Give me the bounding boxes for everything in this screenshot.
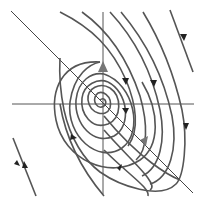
trajectory-3 (110, 12, 162, 176)
eigen-line (11, 11, 193, 193)
trajectory-6 (170, 10, 193, 72)
arrow-icon (122, 108, 129, 114)
arrow-icon (14, 160, 20, 166)
arrow-icon (150, 80, 157, 87)
trajectory-5 (60, 12, 185, 191)
phase-portrait (0, 0, 208, 208)
